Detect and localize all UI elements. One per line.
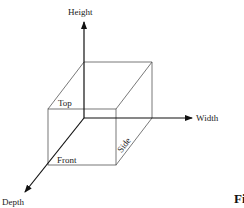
- axes: [25, 22, 192, 192]
- diagram-canvas: [0, 0, 244, 208]
- width-axis-label: Width: [196, 113, 218, 123]
- box-back-edges: [84, 62, 152, 118]
- height-axis-label: Height: [68, 7, 93, 17]
- top-right-depth-edge: [116, 62, 152, 109]
- box-depth-edges: [48, 62, 152, 165]
- depth-axis-label: Depth: [2, 197, 24, 207]
- figure-caption: Fi: [234, 192, 244, 206]
- top-face-label: Top: [58, 98, 72, 108]
- box-dimensions-diagram: Height Width Depth Top Front Side Fi: [0, 0, 244, 208]
- front-face-label: Front: [57, 155, 77, 165]
